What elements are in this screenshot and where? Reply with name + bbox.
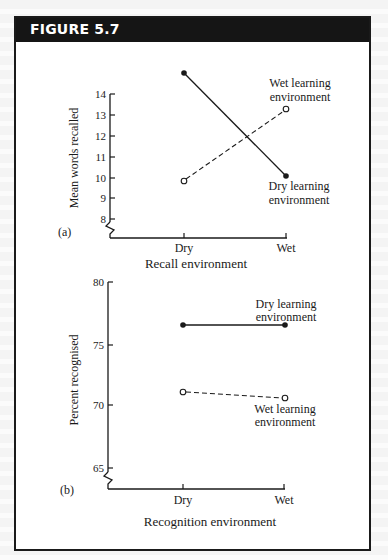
chart-a-ytick: 13	[95, 109, 107, 121]
chart-a-point-wet-wet	[283, 106, 289, 112]
chart-a-axis-break	[106, 222, 114, 238]
chart-b-xtick-wet: Wet	[274, 493, 294, 507]
chart-b-xlabel: Recognition environment	[144, 514, 277, 529]
chart-b-panel-label: (b)	[60, 483, 74, 497]
chart-a: 14 13 12 11 10 9 8 Mean words recalled (…	[58, 70, 331, 271]
chart-b-ytick: 75	[93, 339, 105, 351]
chart-b-legend-wet-2: environment	[255, 415, 316, 429]
chart-b-point-wet-wet	[282, 395, 288, 401]
chart-a-legend-dry-2: environment	[269, 193, 330, 207]
chart-b-ytick: 65	[93, 462, 105, 474]
chart-a-line-wet-learning	[186, 111, 284, 179]
chart-b-legend-dry-2: environment	[256, 310, 317, 324]
chart-b-point-wet-dry	[180, 389, 186, 395]
chart-a-legend-wet-2: environment	[270, 90, 331, 104]
chart-a-ytick: 10	[95, 172, 107, 184]
chart-a-ytick: 14	[95, 88, 107, 100]
chart-b-axis-break	[104, 472, 112, 489]
chart-a-ytick: 12	[95, 130, 106, 142]
chart-a-panel-label: (a)	[58, 225, 71, 239]
chart-a-ytick: 8	[101, 213, 107, 225]
chart-a-xlabel: Recall environment	[145, 256, 248, 271]
chart-b-point-dry-dry	[180, 322, 186, 328]
chart-b-ytick: 70	[93, 399, 105, 411]
chart-a-ytick: 9	[101, 192, 107, 204]
chart-a-point-dry-dry	[181, 70, 187, 76]
chart-a-ytick: 11	[95, 151, 106, 163]
chart-a-xtick-dry: Dry	[175, 241, 194, 255]
chart-b-legend-wet: Wet learning	[254, 402, 315, 416]
figure-charts: 14 13 12 11 10 9 8 Mean words recalled (…	[0, 0, 388, 560]
chart-a-point-wet-dry	[181, 178, 187, 184]
chart-a-xtick-wet: Wet	[276, 241, 296, 255]
chart-b-xtick-dry: Dry	[174, 493, 193, 507]
chart-b-line-wet-learning	[186, 392, 282, 398]
chart-b: 80 75 70 65 Percent recognised (b) Dry W…	[60, 276, 317, 529]
chart-b-ylabel: Percent recognised	[67, 335, 81, 426]
chart-a-point-dry-wet	[283, 173, 289, 179]
chart-b-legend-dry: Dry learning	[256, 297, 317, 311]
chart-a-legend-wet: Wet learning	[269, 76, 330, 90]
chart-a-legend-dry: Dry learning	[269, 179, 330, 193]
chart-a-ylabel: Mean words recalled	[67, 108, 81, 209]
chart-b-ytick: 80	[93, 276, 105, 288]
